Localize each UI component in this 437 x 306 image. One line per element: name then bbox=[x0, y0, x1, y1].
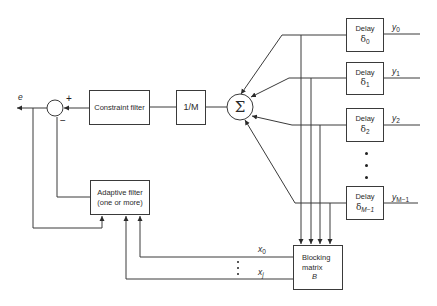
blocking-matrix-block: Blocking matrix B bbox=[293, 245, 343, 290]
adaptive-filter-block: Adaptive filter (one or more) bbox=[90, 180, 150, 215]
error-signal-label: e bbox=[18, 92, 23, 102]
x0-signal-label: x0 bbox=[258, 244, 266, 255]
scale-label: 1/M bbox=[183, 102, 198, 113]
blocking-matrix-label-2: matrix bbox=[302, 263, 322, 272]
ellipsis-dot bbox=[365, 152, 368, 155]
junction-plus-sign: + bbox=[66, 93, 72, 104]
summing-junction bbox=[47, 100, 63, 116]
delay-block-m-1: Delay δM−1 bbox=[346, 186, 384, 220]
ellipsis-dot bbox=[237, 261, 239, 263]
sigma-symbol: Σ bbox=[235, 98, 246, 116]
ellipsis-dot bbox=[365, 164, 368, 167]
ellipsis-dot bbox=[237, 273, 239, 275]
adaptive-filter-sublabel: (one or more) bbox=[97, 198, 142, 207]
constraint-filter-label: Constraint filter bbox=[94, 103, 144, 112]
blocking-matrix-symbol: B bbox=[302, 272, 317, 281]
constraint-filter-block: Constraint filter bbox=[89, 90, 150, 125]
ellipsis-dot bbox=[237, 267, 239, 269]
output-y1-label: y1 bbox=[392, 66, 400, 77]
blocking-matrix-label: Blocking bbox=[302, 253, 330, 262]
delay-label: Delay bbox=[355, 192, 374, 201]
ellipsis-dot bbox=[365, 176, 368, 179]
delay-block-0: Delay δ0 bbox=[346, 18, 384, 52]
sum-block: Σ bbox=[227, 94, 253, 120]
scale-block: 1/M bbox=[176, 90, 206, 125]
delay-block-1: Delay δ1 bbox=[346, 62, 384, 95]
delay-label: Delay bbox=[355, 114, 374, 123]
output-y0-label: y0 bbox=[392, 22, 400, 33]
adaptive-filter-label: Adaptive filter bbox=[97, 188, 142, 197]
xj-signal-label: xj bbox=[258, 267, 264, 278]
output-ym-1-label: yM−1 bbox=[392, 192, 409, 203]
delay-label: Delay bbox=[355, 68, 374, 77]
delay-label: Delay bbox=[355, 24, 374, 33]
junction-minus-sign: − bbox=[60, 115, 66, 126]
output-y2-label: y2 bbox=[392, 113, 400, 124]
delay-block-2: Delay δ2 bbox=[346, 108, 384, 142]
